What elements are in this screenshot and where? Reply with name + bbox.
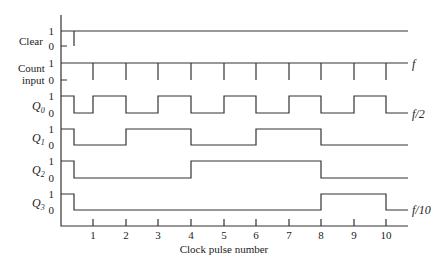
waveform-clear bbox=[61, 31, 408, 46]
waveform-q0 bbox=[61, 96, 408, 113]
svg-text:1: 1 bbox=[49, 25, 55, 37]
svg-text:0: 0 bbox=[49, 74, 55, 86]
tick-label-1: 1 bbox=[90, 229, 96, 241]
tick-label-7: 7 bbox=[286, 229, 292, 241]
signal-label-count: Count bbox=[18, 62, 45, 74]
tick-label-9: 9 bbox=[351, 229, 357, 241]
svg-text:1: 1 bbox=[49, 188, 55, 200]
signal-label-q2: Q2 bbox=[32, 163, 45, 179]
tick-label-8: 8 bbox=[318, 229, 324, 241]
tick-label-5: 5 bbox=[221, 229, 227, 241]
time-ticks bbox=[93, 219, 386, 226]
signal-label-q0: Q0 bbox=[32, 99, 45, 115]
signal-label-q1: Q1 bbox=[32, 131, 45, 147]
time-tick-labels: 1 2 3 4 5 6 7 8 9 10 bbox=[90, 229, 392, 241]
svg-text:0: 0 bbox=[49, 107, 55, 119]
signal-label-q3: Q3 bbox=[32, 196, 45, 212]
svg-text:0: 0 bbox=[49, 204, 55, 216]
svg-text:0: 0 bbox=[49, 139, 55, 151]
waveform-count-input bbox=[61, 63, 408, 80]
annotation-f-10: f/10 bbox=[412, 203, 431, 217]
svg-text:0: 0 bbox=[49, 40, 55, 52]
svg-text:1: 1 bbox=[49, 90, 55, 102]
waveform-q3 bbox=[61, 194, 408, 210]
waveform-q2 bbox=[61, 161, 408, 178]
signal-label-clear: Clear bbox=[19, 35, 43, 47]
svg-text:1: 1 bbox=[49, 155, 55, 167]
tick-label-4: 4 bbox=[188, 229, 194, 241]
annotation-f-2: f/2 bbox=[412, 107, 425, 121]
svg-text:1: 1 bbox=[49, 57, 55, 69]
svg-text:1: 1 bbox=[49, 123, 55, 135]
signal-label-count-line2: input bbox=[22, 74, 45, 86]
annotation-f: f bbox=[412, 57, 417, 71]
x-axis-label: Clock pulse number bbox=[180, 243, 269, 255]
level-labels: 1 0 1 0 1 0 1 0 1 0 1 0 bbox=[49, 25, 68, 216]
svg-text:0: 0 bbox=[49, 172, 55, 184]
tick-label-3: 3 bbox=[155, 229, 161, 241]
tick-label-2: 2 bbox=[123, 229, 129, 241]
tick-label-6: 6 bbox=[253, 229, 259, 241]
waveform-q1 bbox=[61, 129, 408, 145]
tick-label-10: 10 bbox=[381, 229, 393, 241]
timing-diagram: 1 2 3 4 5 6 7 8 9 10 Clock pulse number … bbox=[0, 0, 448, 268]
